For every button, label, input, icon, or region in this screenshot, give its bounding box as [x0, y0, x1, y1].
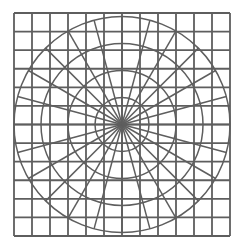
radial-line: [94, 125, 122, 229]
radial-line: [122, 125, 150, 229]
radial-line: [122, 20, 150, 124]
radial-line: [94, 20, 122, 124]
radial-line: [122, 125, 226, 153]
radial-line: [122, 97, 226, 125]
polar-grid-diagram: [0, 0, 239, 246]
radial-lines: [14, 17, 230, 233]
radial-line: [18, 97, 122, 125]
diagram-svg: [0, 0, 239, 246]
radial-line: [18, 125, 122, 153]
